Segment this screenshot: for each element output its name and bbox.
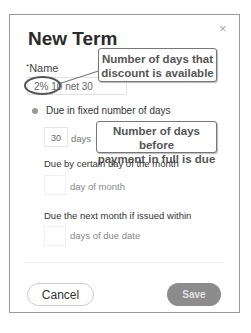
highlight-circle [24, 76, 61, 95]
days-unit-label: days [71, 133, 91, 144]
callout-line: Number of days before [97, 124, 216, 152]
callout-line: discount is available [99, 66, 216, 80]
name-label-text: Name [29, 62, 58, 74]
option-fixed-days[interactable]: Due in fixed number of days [32, 105, 171, 116]
footer-divider [24, 262, 224, 263]
save-button[interactable]: Save [167, 283, 221, 306]
callout-line: Number of days that [99, 52, 216, 66]
option-day-of-month-label[interactable]: Due by certain day of the month [44, 158, 179, 169]
callout-payment-due: Number of days before payment in full is… [96, 121, 217, 153]
name-label: *Name [26, 62, 58, 74]
close-icon[interactable]: × [219, 22, 227, 35]
fixed-days-input[interactable]: 30 [44, 127, 68, 147]
next-month-days-input[interactable] [44, 226, 66, 246]
dialog-title: New Term [28, 28, 117, 50]
option-fixed-days-label: Due in fixed number of days [46, 105, 171, 116]
day-of-month-suffix: day of month [70, 181, 125, 192]
next-month-suffix: days of due date [70, 230, 140, 241]
radio-selected-icon[interactable] [32, 108, 38, 114]
callout-discount-days: Number of days that discount is availabl… [98, 48, 217, 82]
cancel-button[interactable]: Cancel [27, 283, 94, 306]
option-next-month-label[interactable]: Due the next month if issued within [44, 210, 191, 221]
day-of-month-input[interactable] [44, 175, 66, 195]
